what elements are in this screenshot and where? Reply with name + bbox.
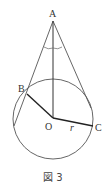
label-c: C — [95, 122, 102, 133]
line-a-left — [14, 21, 53, 126]
cone-circle-diagram: A B O C r 図 3 — [0, 0, 109, 190]
angle-arc-left — [44, 47, 53, 49]
angle-arc-right — [53, 47, 62, 49]
segment-ob — [27, 94, 53, 118]
label-a: A — [49, 8, 57, 19]
line-a-right — [53, 21, 91, 108]
label-r: r — [70, 122, 74, 133]
label-o: O — [45, 121, 52, 132]
label-b: B — [18, 83, 25, 94]
figure-caption: 図 3 — [43, 172, 63, 183]
